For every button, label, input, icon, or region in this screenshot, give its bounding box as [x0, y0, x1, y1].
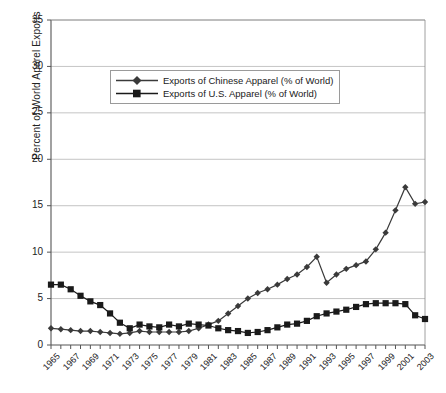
- data-point-us: [176, 323, 182, 329]
- data-point-chinese: [77, 328, 83, 334]
- data-point-chinese: [166, 329, 172, 335]
- y-tick-label: 15: [17, 199, 43, 210]
- data-point-us: [264, 327, 270, 333]
- data-point-us: [107, 310, 113, 316]
- data-point-chinese: [353, 262, 359, 268]
- y-axis-title: Percent of World Aparel Exports: [31, 0, 42, 206]
- data-point-chinese: [264, 286, 270, 292]
- legend-marker-square-icon: [115, 88, 159, 99]
- data-point-chinese: [107, 330, 113, 336]
- data-point-us: [196, 321, 202, 327]
- data-point-chinese: [254, 290, 260, 296]
- data-point-us: [215, 325, 221, 331]
- data-point-us: [245, 330, 251, 336]
- data-point-us: [136, 321, 142, 327]
- y-tick-label: 20: [17, 153, 43, 164]
- y-tick-label: 10: [17, 246, 43, 257]
- data-point-chinese: [422, 199, 428, 205]
- data-point-us: [68, 286, 74, 292]
- data-point-us: [117, 320, 123, 326]
- apparel-exports-chart: Percent of World Aparel Exports 05101520…: [0, 0, 446, 393]
- data-point-us: [58, 282, 64, 288]
- data-point-chinese: [136, 328, 142, 334]
- data-point-us: [383, 300, 389, 306]
- data-point-us: [77, 293, 83, 299]
- data-point-chinese: [146, 329, 152, 335]
- data-point-us: [333, 308, 339, 314]
- data-point-chinese: [67, 327, 73, 333]
- data-point-us: [402, 301, 408, 307]
- y-tick-label: 25: [17, 106, 43, 117]
- data-point-chinese: [343, 266, 349, 272]
- data-point-chinese: [87, 328, 93, 334]
- data-point-us: [235, 328, 241, 334]
- data-point-us: [255, 329, 261, 335]
- data-point-us: [373, 300, 379, 306]
- data-point-chinese: [58, 326, 64, 332]
- data-point-us: [392, 300, 398, 306]
- legend-marker-diamond-icon: [115, 75, 159, 86]
- data-point-chinese: [97, 329, 103, 335]
- data-point-us: [274, 324, 280, 330]
- data-point-us: [225, 327, 231, 333]
- data-point-chinese: [392, 207, 398, 213]
- data-point-us: [343, 307, 349, 313]
- y-tick-label: 35: [17, 14, 43, 25]
- data-point-chinese: [382, 229, 388, 235]
- y-tick-label: 5: [17, 292, 43, 303]
- chart-legend: Exports of Chinese Apparel (% of World) …: [110, 70, 340, 104]
- data-point-us: [156, 324, 162, 330]
- data-point-us: [304, 318, 310, 324]
- y-tick-label: 30: [17, 60, 43, 71]
- data-point-us: [314, 313, 320, 319]
- data-point-us: [294, 321, 300, 327]
- data-point-chinese: [284, 276, 290, 282]
- data-point-us: [87, 298, 93, 304]
- data-point-chinese: [176, 329, 182, 335]
- data-point-us: [353, 304, 359, 310]
- data-point-chinese: [186, 328, 192, 334]
- data-point-us: [284, 321, 290, 327]
- legend-item-chinese: Exports of Chinese Apparel (% of World): [115, 74, 333, 87]
- data-point-us: [127, 325, 133, 331]
- data-point-chinese: [402, 184, 408, 190]
- plot-area: [0, 0, 446, 393]
- data-point-chinese: [274, 281, 280, 287]
- data-point-chinese: [117, 331, 123, 337]
- data-point-us: [363, 301, 369, 307]
- data-point-us: [323, 310, 329, 316]
- data-point-us: [146, 323, 152, 329]
- data-point-us: [205, 322, 211, 328]
- data-point-us: [412, 312, 418, 318]
- data-point-us: [48, 282, 54, 288]
- y-tick-label: 0: [17, 339, 43, 350]
- data-point-us: [422, 316, 428, 322]
- data-point-chinese: [48, 325, 54, 331]
- legend-item-us: Exports of U.S. Apparel (% of World): [115, 87, 333, 100]
- data-point-us: [186, 321, 192, 327]
- data-point-us: [166, 321, 172, 327]
- legend-label-chinese: Exports of Chinese Apparel (% of World): [163, 74, 333, 87]
- legend-label-us: Exports of U.S. Apparel (% of World): [163, 87, 317, 100]
- data-point-us: [97, 302, 103, 308]
